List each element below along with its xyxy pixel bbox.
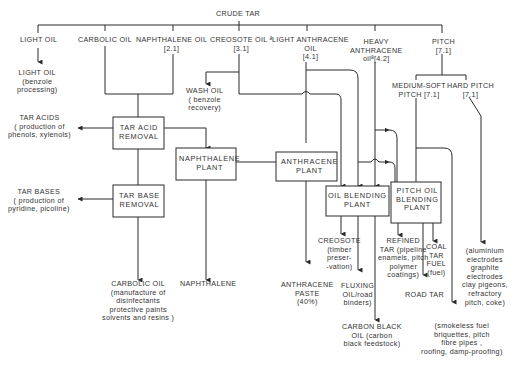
- wash-oil-product: WASH OIL ( benzole recovery): [186, 87, 223, 113]
- coal-tar-fuel-product: COAL TAR FUEL (fuel): [426, 243, 447, 277]
- heavy-anthracene-oil-fraction: HEAVY ANTHRACENE oilª[4.2]: [350, 38, 403, 64]
- tar-acids-product: TAR ACIDS ( production of phenols, xylen…: [8, 114, 71, 140]
- tar-bases-product: TAR BASES ( production of pyridine, pico…: [8, 188, 70, 214]
- medium-soft-pitch-uses: (smokeless fuel briquettes, pitch fibre …: [421, 322, 503, 356]
- naphthalene-oil-fraction: NAPHTHALENE OIL [2.1]: [136, 36, 207, 53]
- medium-soft-pitch: MEDIUM-SOFT PITCH [7.1]: [392, 82, 446, 99]
- refined-tar-product: REFINED TAR (pipeline enamels, pitch pol…: [378, 237, 429, 280]
- naphthalene-product: NAPHTHALENE: [180, 280, 236, 289]
- light-anthracene-oil-fraction: LIGHT ANTHRACENE OIL [4.1]: [272, 36, 349, 62]
- fluxing-oil-product: FLUXING OIL/road binders): [341, 282, 374, 308]
- crude-tar-distribution-bus: [38, 21, 442, 33]
- naphthalene-plant-label: NAPHTHALENE PLANT: [179, 155, 240, 172]
- tar-base-removal-label: TAR BASE REMOVAL: [119, 192, 160, 209]
- crude-tar-label: CRUDE TAR: [216, 10, 260, 19]
- creosote-oil-fraction: CREOSOTE OIL ª [3.1]: [210, 36, 273, 53]
- carbon-black-oil-product: CARBON BLACK OIL (carbon black feedstock…: [342, 323, 402, 349]
- carbolic-oil-fraction: CARBOLIC OIL: [78, 36, 132, 45]
- pitch-fraction: PITCH [7.1]: [432, 38, 455, 55]
- anthracene-plant-label: ANTHRACENE PLANT: [281, 158, 338, 175]
- hard-pitch-uses: (aluminium electrodes graphite electrode…: [462, 247, 508, 307]
- road-tar-product: ROAD TAR: [405, 291, 444, 300]
- carbolic-naphthalene-merge: [105, 46, 173, 117]
- hard-pitch: HARD PITCH [7.1]: [447, 82, 494, 99]
- light-oil-product: LIGHT OIL (benzole processing): [17, 69, 57, 95]
- creosote-product: CREOSOTE (timber preser- -vation): [318, 237, 361, 271]
- carbolic-oil-product: CARBOLIC OIL (manufacture of disinfectan…: [102, 280, 174, 323]
- pitch-oil-blending-plant-label: PITCH OIL BLENDING PLANT: [396, 187, 439, 213]
- anthracene-paste-product: ANTHRACENE PASTE (40%): [281, 281, 334, 307]
- oil-blending-plant-label: OIL BLENDING PLANT: [328, 192, 387, 209]
- light-oil-fraction: LIGHT OIL: [20, 36, 57, 45]
- tar-acid-removal-label: TAR ACID REMOVAL: [119, 124, 159, 141]
- anthracene-to-pitch-blending: [358, 159, 395, 186]
